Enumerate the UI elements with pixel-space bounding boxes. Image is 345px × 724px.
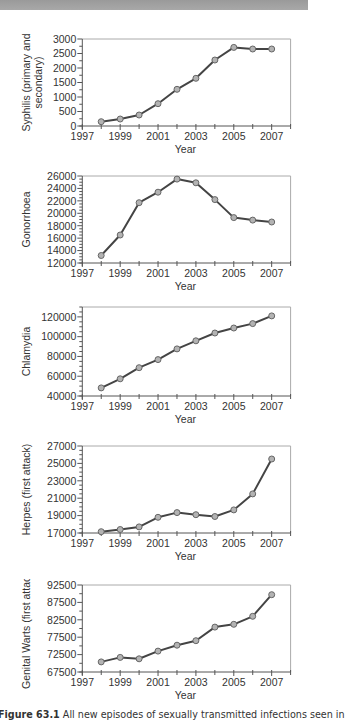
- y-tick-label: 87500: [47, 596, 76, 608]
- data-point: [193, 180, 199, 186]
- x-tick-label: 2007: [260, 537, 284, 549]
- x-tick-label: 1997: [71, 267, 95, 279]
- x-tick-label: 2005: [222, 267, 246, 279]
- x-tick-label: 2001: [146, 676, 170, 688]
- data-point: [136, 200, 142, 206]
- data-point: [269, 456, 275, 462]
- series-line: [101, 179, 272, 255]
- data-point: [174, 642, 180, 648]
- x-tick-label: 2003: [184, 676, 208, 688]
- x-tick-label: 1997: [71, 676, 95, 688]
- x-tick-label: 2003: [184, 400, 208, 412]
- data-point: [212, 514, 218, 520]
- x-tick-label: 1999: [108, 676, 132, 688]
- data-point: [193, 638, 199, 644]
- data-point: [98, 659, 104, 665]
- x-axis-title: Year: [175, 280, 197, 292]
- data-point: [174, 86, 180, 92]
- x-tick-label: 2001: [146, 537, 170, 549]
- data-point: [250, 491, 256, 497]
- x-axis-title: Year: [175, 143, 197, 155]
- chart-syphilis: 0500100015002000250030001997199920012003…: [0, 25, 308, 175]
- data-point: [136, 365, 142, 371]
- y-tick-label: 18000: [47, 220, 76, 232]
- data-point: [136, 524, 142, 530]
- data-point: [231, 44, 237, 50]
- y-tick-label: 2000: [53, 62, 77, 74]
- x-tick-label: 1999: [108, 267, 132, 279]
- y-tick-label: 25000: [47, 457, 76, 469]
- x-tick-label: 2003: [184, 267, 208, 279]
- data-point: [117, 116, 123, 122]
- x-tick-label: 2005: [222, 676, 246, 688]
- data-point: [250, 217, 256, 223]
- x-tick-label: 2001: [146, 130, 170, 142]
- data-point: [231, 215, 237, 221]
- y-axis-title: Gonorrhoea: [20, 191, 32, 247]
- y-tick-label: 60000: [47, 370, 76, 382]
- data-point: [269, 46, 275, 52]
- data-point: [155, 189, 161, 195]
- x-tick-label: 1997: [71, 130, 95, 142]
- data-point: [117, 232, 123, 238]
- y-tick-label: 27000: [47, 440, 76, 452]
- y-tick-label: 16000: [47, 232, 76, 244]
- data-point: [193, 512, 199, 518]
- y-tick-label: 100000: [41, 330, 76, 342]
- x-axis-title: Year: [175, 550, 197, 562]
- y-tick-label: 22000: [47, 195, 76, 207]
- header-band: [0, 0, 308, 10]
- data-point: [155, 648, 161, 654]
- data-point: [269, 313, 275, 319]
- caption-text: All new episodes of sexually transmitted…: [63, 709, 345, 720]
- y-axis-title: Genital Warts (first attack): [20, 579, 32, 689]
- series-line: [101, 595, 272, 662]
- x-tick-label: 1999: [108, 130, 132, 142]
- series-line: [101, 459, 272, 532]
- x-tick-label: 1999: [108, 537, 132, 549]
- y-tick-label: 120000: [41, 311, 76, 323]
- data-point: [136, 112, 142, 118]
- chart-genital-warts: 6750072500775008250087500925001997199920…: [0, 579, 308, 724]
- figure-caption: Figure 63.1 All new episodes of sexually…: [0, 709, 318, 720]
- data-point: [231, 507, 237, 513]
- series-line: [101, 316, 272, 388]
- y-tick-label: 23000: [47, 475, 76, 487]
- series-line: [101, 47, 272, 121]
- data-point: [231, 621, 237, 627]
- x-tick-label: 2005: [222, 537, 246, 549]
- data-point: [117, 654, 123, 660]
- x-tick-label: 2001: [146, 400, 170, 412]
- data-point: [212, 330, 218, 336]
- data-point: [269, 219, 275, 225]
- x-tick-label: 1997: [71, 400, 95, 412]
- data-point: [117, 527, 123, 533]
- data-point: [212, 624, 218, 630]
- data-point: [193, 75, 199, 81]
- y-tick-label: 92500: [47, 579, 76, 591]
- data-point: [155, 357, 161, 363]
- data-point: [212, 197, 218, 203]
- y-axis-title: secondary): [32, 57, 44, 109]
- x-tick-label: 2005: [222, 400, 246, 412]
- x-tick-label: 2001: [146, 267, 170, 279]
- y-tick-label: 3000: [53, 33, 77, 45]
- y-tick-label: 20000: [47, 207, 76, 219]
- x-tick-label: 2007: [260, 267, 284, 279]
- x-tick-label: 2005: [222, 130, 246, 142]
- y-tick-label: 2500: [53, 47, 77, 59]
- chart-herpes: 1700019000210002300025000270001997199920…: [0, 440, 308, 590]
- y-tick-label: 21000: [47, 492, 76, 504]
- y-tick-label: 26000: [47, 170, 76, 182]
- data-point: [250, 46, 256, 52]
- data-point: [250, 321, 256, 327]
- data-point: [98, 529, 104, 535]
- data-point: [117, 376, 123, 382]
- y-tick-label: 1500: [53, 76, 77, 88]
- y-tick-label: 72500: [47, 648, 76, 660]
- y-axis-title: Herpes (first attack): [20, 444, 32, 536]
- chart-gonorrhoea: 1200014000160001800020000220002400026000…: [0, 160, 308, 310]
- data-point: [250, 613, 256, 619]
- x-tick-label: 1999: [108, 400, 132, 412]
- x-axis-title: Year: [175, 413, 197, 425]
